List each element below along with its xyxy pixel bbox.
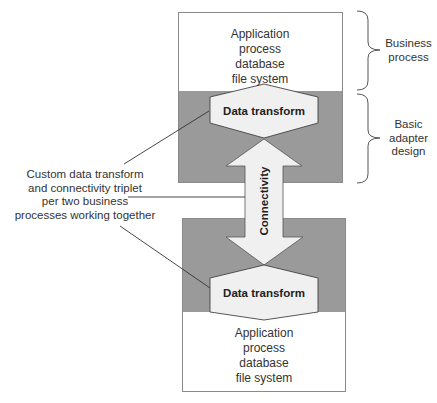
top-data-transform-label: Data transform: [210, 104, 318, 118]
brace-basic-adapter: [357, 94, 380, 183]
brace-label-basic-adapter: Basic adapter design: [380, 118, 437, 159]
bottom-data-transform-label: Data transform: [210, 286, 318, 300]
annotation-line: processes working together: [5, 209, 165, 223]
connectivity-label: Connectivity: [257, 156, 271, 246]
brace-business-process: [357, 11, 380, 90]
annotation-line: Custom data transform: [5, 168, 165, 182]
bottom-box-text: Application process database file system: [194, 326, 334, 386]
bottom-box-line: file system: [194, 371, 334, 386]
top-box-line: process: [190, 42, 330, 57]
top-box-line: Application: [190, 27, 330, 42]
brace-label-line: process: [380, 51, 437, 65]
annotation-line: per two business: [5, 195, 165, 209]
brace-label-line: adapter: [380, 132, 437, 146]
bottom-box-line: process: [194, 341, 334, 356]
top-box-line: database: [190, 57, 330, 72]
brace-label-line: Basic: [380, 118, 437, 132]
bottom-box-line: Application: [194, 326, 334, 341]
brace-label-business-process: Business process: [380, 37, 437, 64]
annotation-line: and connectivity triplet: [5, 182, 165, 196]
brace-label-line: design: [380, 145, 437, 159]
brace-label-line: Business: [380, 37, 437, 51]
top-box-text: Application process database file system: [190, 27, 330, 87]
top-box-line: file system: [190, 72, 330, 87]
annotation-text: Custom data transform and connectivity t…: [5, 168, 165, 222]
bottom-box-line: database: [194, 356, 334, 371]
